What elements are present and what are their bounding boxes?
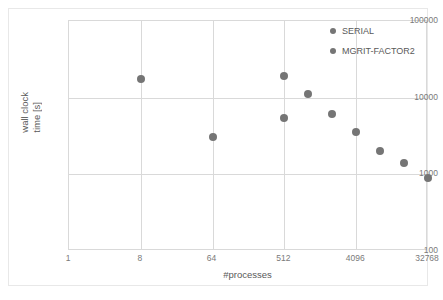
data-point [209, 133, 217, 141]
y-axis-title-line-2: time [s] [31, 102, 43, 133]
x-axis-tick-label: 32768 [397, 253, 443, 264]
x-axis-tick-label: 512 [253, 253, 313, 264]
gridline-vertical [141, 21, 142, 249]
legend-item[interactable]: SERIAL [330, 26, 415, 36]
x-axis-tick-label: 64 [182, 253, 242, 264]
data-point [376, 147, 384, 155]
gridline-horizontal [69, 174, 426, 175]
x-axis-title: #processes [68, 269, 427, 280]
y-axis-tick-label: 1000 [376, 168, 438, 178]
legend-label: SERIAL [342, 26, 374, 36]
gridline-vertical [284, 21, 285, 249]
data-point [280, 114, 288, 122]
y-axis-title: wall clocktime [s] [14, 92, 48, 136]
chart-legend: SERIALMGRIT-FACTOR2 [330, 26, 415, 66]
legend-item[interactable]: MGRIT-FACTOR2 [330, 46, 415, 56]
x-axis-tick-label: 1 [38, 253, 98, 264]
data-point [352, 128, 360, 136]
x-axis-tick-label: 8 [110, 253, 170, 264]
data-point [400, 159, 408, 167]
data-point [137, 75, 145, 83]
legend-label: MGRIT-FACTOR2 [342, 46, 415, 56]
data-point [280, 72, 288, 80]
y-axis-tick-label: 100000 [376, 15, 438, 25]
y-axis-tick-label: 10000 [376, 92, 438, 102]
gridline-horizontal [69, 98, 426, 99]
data-point [328, 110, 336, 118]
x-axis-tick-label: 4096 [325, 253, 385, 264]
y-axis-title-line-1: wall clock [19, 92, 31, 133]
legend-marker-icon [330, 28, 336, 34]
legend-marker-icon [330, 48, 336, 54]
